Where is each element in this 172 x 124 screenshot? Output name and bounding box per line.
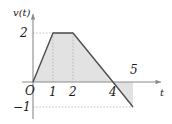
origin-label: O bbox=[25, 85, 35, 97]
y-tick-label-2: 2 bbox=[20, 27, 28, 39]
x-axis-arrow-icon bbox=[156, 80, 162, 85]
x-axis-label: t bbox=[160, 88, 164, 98]
velocity-time-graph-figure: v(t) t O 2 −1 1 2 4 5 bbox=[0, 0, 172, 124]
y-axis-arrow-icon bbox=[31, 14, 36, 20]
y-axis-label: v(t) bbox=[13, 8, 30, 18]
x-tick-label-2: 2 bbox=[69, 86, 77, 98]
x-tick-label-5: 5 bbox=[130, 64, 138, 76]
x-tick-label-1: 1 bbox=[49, 86, 57, 98]
y-tick-label-minus1: −1 bbox=[13, 101, 31, 113]
x-tick-label-4: 4 bbox=[109, 86, 117, 98]
